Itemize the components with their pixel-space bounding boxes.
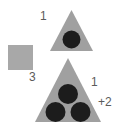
diagram-canvas: 1 3 1 +2 <box>0 0 131 132</box>
dot-2 <box>46 102 66 122</box>
dot-3 <box>71 102 91 122</box>
gray-square-shape <box>8 45 33 70</box>
triangle-with-one-dot <box>50 10 93 51</box>
label-top-one: 1 <box>40 10 47 22</box>
dot-1 <box>63 31 81 49</box>
dot-1 <box>58 84 78 104</box>
label-plus-two: +2 <box>98 96 112 108</box>
triangle-with-three-dots <box>35 58 101 122</box>
label-left-three: 3 <box>29 71 36 83</box>
label-right-one: 1 <box>91 76 98 88</box>
